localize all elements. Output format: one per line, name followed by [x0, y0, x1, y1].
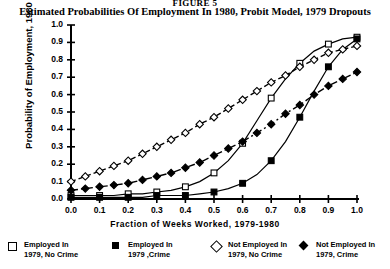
data-point: [196, 159, 203, 166]
data-point: [240, 180, 246, 186]
y-tick-label: 0.4: [37, 123, 63, 133]
data-point: [196, 121, 203, 128]
y-tick-label: 0.8: [37, 54, 63, 64]
data-point: [339, 75, 346, 82]
data-point: [167, 136, 174, 143]
x-tick-label: 0.1: [87, 205, 113, 215]
y-tick-label: 0.5: [37, 106, 63, 116]
data-point: [183, 193, 189, 199]
data-point: [182, 129, 189, 136]
data-point: [326, 64, 332, 70]
data-point: [268, 79, 275, 86]
legend-label: Not Employed In1979, Crime: [316, 240, 375, 259]
legend-label-line1: Not Employed In: [316, 240, 375, 250]
x-tick-label: 0.8: [287, 205, 313, 215]
x-tick-label: 0.5: [201, 205, 227, 215]
data-point: [139, 176, 146, 183]
data-point: [210, 152, 217, 159]
data-point: [239, 96, 246, 103]
data-point: [354, 36, 360, 42]
legend-label-line1: Employed In: [24, 240, 78, 250]
open-square-icon: [8, 242, 17, 251]
y-tick-label: 0.7: [37, 71, 63, 81]
filled-diamond-icon: [299, 241, 309, 251]
legend-label: Employed In1979 ,Crime: [128, 240, 173, 259]
data-point: [182, 164, 189, 171]
y-tick-label: 0.2: [37, 158, 63, 168]
y-tick-label: 0.0: [37, 193, 63, 203]
data-point: [96, 183, 103, 190]
data-point: [139, 150, 146, 157]
data-point: [183, 184, 189, 190]
data-point: [210, 114, 217, 121]
data-point: [154, 193, 160, 199]
x-tick-label: 0.9: [315, 205, 341, 215]
legend-label-line2: 1979, No Crime: [24, 250, 78, 260]
data-point: [325, 82, 332, 89]
data-point: [153, 143, 160, 150]
data-point: [297, 114, 303, 120]
data-point: [153, 173, 160, 180]
data-point: [96, 168, 103, 175]
x-tick-label: 0.4: [172, 205, 198, 215]
data-point: [353, 42, 360, 49]
data-point: [253, 129, 260, 136]
y-tick-label: 0.3: [37, 141, 63, 151]
x-tick-label: 1.0: [344, 205, 370, 215]
data-point: [82, 173, 89, 180]
legend-label-line2: 1979 ,Crime: [128, 250, 173, 260]
y-tick-label: 0.6: [37, 89, 63, 99]
data-point: [310, 56, 317, 63]
data-point: [68, 194, 74, 200]
legend-label: Employed In1979, No Crime: [24, 240, 78, 259]
x-tick-label: 0.2: [115, 205, 141, 215]
data-point: [282, 72, 289, 79]
data-point: [167, 169, 174, 176]
y-tick-label: 0.1: [37, 176, 63, 186]
x-tick-label: 0.6: [230, 205, 256, 215]
data-point: [353, 68, 360, 75]
x-tick-label: 0.3: [144, 205, 170, 215]
x-tick-label: 0.0: [58, 205, 84, 215]
data-point: [325, 49, 332, 56]
data-point: [97, 194, 103, 200]
data-point: [125, 180, 132, 187]
data-point: [82, 185, 89, 192]
legend-label-line2: 1979, No Crime: [228, 250, 287, 260]
data-point: [211, 189, 217, 195]
figure-container: FIGURE 5 Estimated Probabilities Of Empl…: [0, 0, 390, 269]
data-point: [67, 178, 74, 185]
chart-legend: Employed In1979, No CrimeEmployed In1979…: [0, 236, 390, 269]
data-point: [110, 162, 117, 169]
data-point: [225, 105, 232, 112]
x-tick-label: 0.7: [258, 205, 284, 215]
legend-label: Not Employed In1979, No Crime: [228, 240, 287, 259]
data-point: [125, 157, 132, 164]
legend-label-line2: 1979, Crime: [316, 250, 375, 260]
y-tick-label: 0.9: [37, 36, 63, 46]
y-tick-label: 1.0: [37, 19, 63, 29]
data-point: [125, 194, 131, 200]
data-point: [225, 145, 232, 152]
data-point: [253, 87, 260, 94]
legend-label-line1: Employed In: [128, 240, 173, 250]
data-point: [268, 95, 274, 101]
filled-square-icon: [112, 242, 119, 249]
data-point: [211, 170, 217, 176]
legend-label-line1: Not Employed In: [228, 240, 287, 250]
data-point: [326, 41, 332, 47]
data-point: [110, 181, 117, 188]
data-point: [268, 158, 274, 164]
open-diamond-icon: [210, 240, 223, 253]
